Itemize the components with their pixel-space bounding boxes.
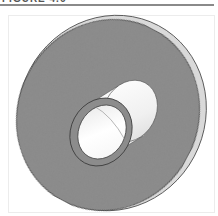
bushing-illustration [0,0,218,216]
